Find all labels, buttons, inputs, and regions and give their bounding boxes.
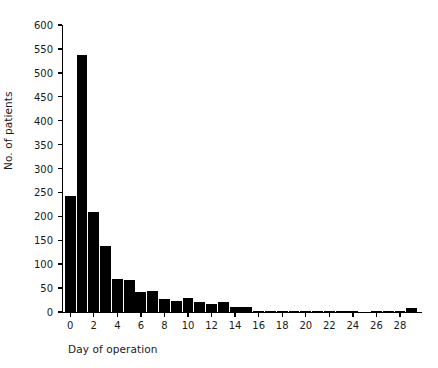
x-tick-label: 10 (182, 320, 195, 331)
x-tick-label: 14 (229, 320, 242, 331)
bar (371, 311, 382, 312)
bar (194, 302, 205, 312)
y-tick-label: 150 (34, 235, 53, 246)
bar (218, 302, 229, 312)
x-tick-mark (329, 313, 330, 317)
y-tick-mark (58, 311, 62, 312)
y-tick-label: 550 (34, 43, 53, 54)
bar (230, 307, 241, 312)
bar (147, 291, 158, 312)
bar (300, 311, 311, 312)
x-tick-label: 20 (299, 320, 312, 331)
bar (65, 196, 76, 312)
y-tick-mark (58, 168, 62, 169)
y-tick-label: 50 (40, 283, 53, 294)
x-tick-label: 2 (91, 320, 97, 331)
bar (206, 304, 217, 312)
x-tick-mark (70, 313, 71, 317)
bar (159, 299, 170, 312)
x-tick-label: 16 (252, 320, 265, 331)
x-tick-label: 24 (347, 320, 360, 331)
y-tick-mark (58, 287, 62, 288)
x-axis-title: Day of operation (68, 343, 158, 355)
x-tick-label: 12 (205, 320, 218, 331)
x-tick-mark (352, 313, 353, 317)
y-tick-mark (58, 48, 62, 49)
y-tick-label: 350 (34, 139, 53, 150)
y-tick-mark (58, 192, 62, 193)
y-tick-mark (58, 24, 62, 25)
bar (383, 311, 394, 312)
y-tick-mark (58, 240, 62, 241)
y-tick-mark (58, 96, 62, 97)
bar (253, 311, 264, 312)
y-tick-mark (58, 120, 62, 121)
plot-area: 050100150200250300350400450500550600 024… (62, 25, 420, 312)
y-tick-label: 300 (34, 163, 53, 174)
x-tick-mark (258, 313, 259, 317)
x-tick-label: 6 (138, 320, 144, 331)
x-tick-mark (187, 313, 188, 317)
x-tick-mark (305, 313, 306, 317)
x-tick-mark (399, 313, 400, 317)
x-tick-mark (376, 313, 377, 317)
bar (112, 279, 123, 312)
x-tick-mark (117, 313, 118, 317)
y-tick-mark (58, 72, 62, 73)
bar (265, 311, 276, 312)
x-tick-label: 28 (394, 320, 407, 331)
bar (289, 311, 300, 312)
y-axis-title: No. of patients (2, 30, 14, 170)
bar (100, 246, 111, 312)
bar-chart: No. of patients 050100150200250300350400… (0, 0, 438, 368)
bar (124, 280, 135, 312)
x-tick-mark (93, 313, 94, 317)
y-tick-mark (58, 263, 62, 264)
x-tick-label: 22 (323, 320, 336, 331)
y-tick-label: 100 (34, 259, 53, 270)
x-tick-label: 8 (161, 320, 167, 331)
y-tick-label: 200 (34, 211, 53, 222)
bar (171, 301, 182, 312)
x-tick-label: 4 (114, 320, 120, 331)
bar (406, 308, 417, 312)
bar (183, 298, 194, 312)
bar (312, 311, 323, 312)
y-tick-label: 450 (34, 91, 53, 102)
y-tick-label: 0 (47, 307, 53, 318)
bar (135, 292, 146, 312)
y-tick-label: 250 (34, 187, 53, 198)
x-tick-label: 18 (276, 320, 289, 331)
x-tick-mark (282, 313, 283, 317)
bar (88, 212, 99, 312)
x-tick-label: 0 (67, 320, 73, 331)
y-tick-mark (58, 216, 62, 217)
bar (277, 311, 288, 312)
x-tick-mark (140, 313, 141, 317)
x-tick-label: 26 (370, 320, 383, 331)
x-tick-mark (234, 313, 235, 317)
y-tick-label: 600 (34, 20, 53, 31)
x-tick-mark (211, 313, 212, 317)
bar (77, 55, 88, 312)
bar (395, 311, 406, 312)
bar (241, 307, 252, 312)
y-tick-label: 500 (34, 67, 53, 78)
y-tick-mark (58, 144, 62, 145)
bar (347, 311, 358, 312)
y-tick-label: 400 (34, 115, 53, 126)
bar (324, 311, 335, 312)
x-tick-mark (164, 313, 165, 317)
bar (336, 311, 347, 312)
